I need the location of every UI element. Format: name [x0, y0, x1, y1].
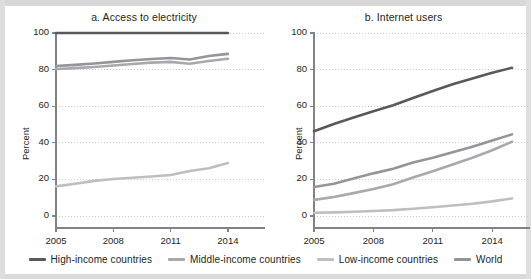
x-tick-label: 2011: [155, 235, 187, 246]
x-tick-label: 2011: [417, 235, 449, 246]
figure-container: a. Access to electricity Percent 0204060…: [0, 0, 531, 279]
x-tick-label: 2005: [40, 235, 72, 246]
series-line: [314, 198, 512, 212]
legend-item[interactable]: World: [454, 254, 502, 265]
legend-item-label: Low-income countries: [339, 254, 438, 265]
y-tick-label: 60: [274, 99, 307, 110]
x-tick-label: 2005: [298, 235, 330, 246]
series-line: [314, 142, 512, 200]
y-tick-label: 60: [16, 99, 49, 110]
y-tick-label: 80: [16, 63, 49, 74]
legend-line-swatch-icon: [317, 258, 334, 261]
figure-edge-bottom: [0, 274, 531, 279]
y-tick-label: 40: [16, 136, 49, 147]
y-tick-label: 40: [274, 136, 307, 147]
chart-panel-b: b. Internet users Percent 02040608010020…: [266, 0, 531, 245]
y-tick-label: 100: [16, 26, 49, 37]
legend-item[interactable]: High-income countries: [29, 254, 153, 265]
y-tick-label: 20: [274, 172, 307, 183]
legend-item-label: Middle-income countries: [190, 254, 301, 265]
legend-item[interactable]: Middle-income countries: [168, 254, 301, 265]
y-tick-label: 100: [274, 26, 307, 37]
x-tick-label: 2014: [476, 235, 508, 246]
x-tick-label: 2014: [212, 235, 244, 246]
series-line: [314, 68, 512, 132]
y-tick-label: 0: [274, 209, 307, 220]
y-tick-label: 0: [16, 209, 49, 220]
y-tick-label: 80: [274, 63, 307, 74]
x-tick-label: 2008: [357, 235, 389, 246]
chart-legend: High-income countriesMiddle-income count…: [0, 248, 531, 270]
legend-item[interactable]: Low-income countries: [317, 254, 438, 265]
y-tick-label: 20: [16, 172, 49, 183]
legend-item-label: High-income countries: [51, 254, 153, 265]
series-line: [56, 163, 228, 186]
legend-line-swatch-icon: [454, 258, 471, 261]
x-tick-label: 2008: [97, 235, 129, 246]
chart-panel-a: a. Access to electricity Percent 0204060…: [0, 0, 266, 245]
legend-item-label: World: [476, 254, 502, 265]
legend-line-swatch-icon: [29, 258, 46, 261]
legend-line-swatch-icon: [168, 258, 185, 261]
